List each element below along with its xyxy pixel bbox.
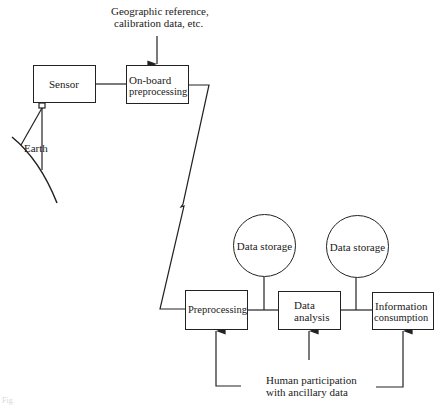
- reference-note-line1: Geographic reference,: [111, 5, 209, 17]
- telemetry-link: [160, 85, 209, 309]
- storage1-label: Data storage: [237, 240, 292, 252]
- human-to-consumption-arrow: [376, 331, 403, 387]
- onboard-label-line1: On-board: [129, 74, 171, 86]
- onboard-label-line2: preprocessing: [129, 86, 187, 98]
- preprocessing-node: Preprocessing: [185, 290, 248, 330]
- information-consumption-node: Information consumption: [372, 292, 434, 330]
- storage2-label: Data storage: [330, 241, 385, 253]
- reference-note-line2: calibration data, etc.: [114, 17, 203, 29]
- earth-label: Earth: [24, 142, 48, 154]
- sensor-label: Sensor: [49, 78, 79, 90]
- view-line-oblique: [21, 108, 42, 145]
- sensor-head-icon: [39, 103, 45, 108]
- sensor-node: Sensor: [33, 65, 96, 103]
- human-participation-line2: with ancillary data: [266, 386, 348, 398]
- consumption-label-line1: Information: [375, 300, 428, 312]
- onboard-preprocessing-node: On-board preprocessing: [126, 65, 189, 104]
- consumption-label-line2: consumption: [374, 312, 428, 324]
- data-storage-2: Data storage: [326, 215, 389, 278]
- analysis-label-line2: analysis: [294, 311, 329, 323]
- diagram-canvas: [0, 0, 448, 408]
- figure-caption: Fig.: [2, 396, 15, 405]
- data-storage-1: Data storage: [233, 214, 296, 277]
- human-to-preprocessing-arrow: [216, 331, 241, 386]
- data-analysis-node: Data analysis: [278, 291, 341, 330]
- preprocessing-label: Preprocessing: [188, 304, 247, 316]
- human-participation-line1: Human participation: [266, 374, 357, 386]
- analysis-label-line1: Data: [294, 299, 315, 311]
